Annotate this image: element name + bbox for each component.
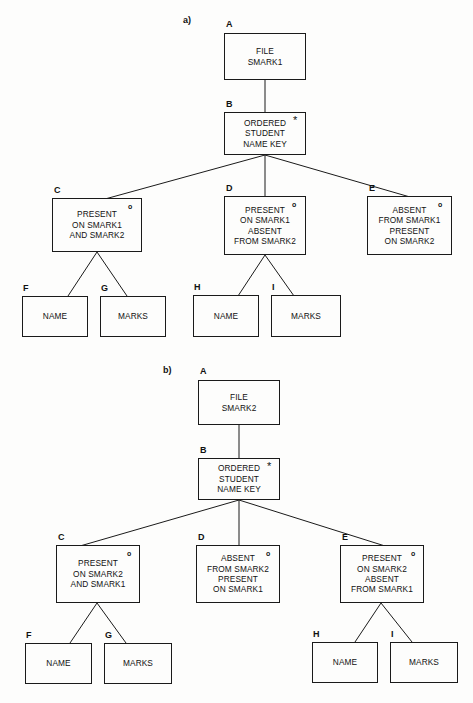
node-a-C-line-3: AND SMARK2 <box>70 230 125 240</box>
node-b-F-line-1: NAME <box>46 658 70 668</box>
node-a-D-line-3: ABSENT <box>248 226 282 236</box>
node-b-E-line-3: ABSENT <box>365 574 399 584</box>
node-id-a-C: C <box>54 185 61 195</box>
node-id-b-I: I <box>391 629 394 639</box>
node-id-a-E: E <box>369 183 375 193</box>
node-b-D-line-3: PRESENT <box>218 574 258 584</box>
node-b-E-line-4: FROM SMARK1 <box>351 584 413 594</box>
node-id-b-H: H <box>313 629 320 639</box>
node-a-C-line-1: PRESENT <box>77 209 117 219</box>
node-b-E-line-2: ON SMARK2 <box>357 564 407 574</box>
section-label-a: a) <box>183 15 191 25</box>
node-a-E-line-4: ON SMARK2 <box>385 236 435 246</box>
node-a-D-line-4: FROM SMARK2 <box>234 236 296 246</box>
node-b-B-line-1: ORDERED <box>218 463 260 473</box>
node-b-G-line-1: MARKS <box>123 658 153 668</box>
node-a-I-line-1: MARKS <box>291 311 321 321</box>
selection-circle-marker-b-C: o <box>127 550 131 557</box>
node-id-b-G: G <box>105 630 112 640</box>
node-id-a-F: F <box>23 283 29 293</box>
node-id-b-B: B <box>200 445 207 455</box>
node-b-I[interactable]: MARKS <box>390 642 458 683</box>
node-id-a-A: A <box>226 19 233 29</box>
node-id-a-H: H <box>194 282 201 292</box>
node-id-a-B: B <box>226 99 233 109</box>
selection-circle-marker-a-E: o <box>438 201 442 208</box>
node-id-b-F: F <box>26 630 32 640</box>
node-b-D-line-1: ABSENT <box>221 553 255 563</box>
selection-circle-marker-a-C: o <box>128 203 132 210</box>
node-b-H[interactable]: NAME <box>312 642 378 683</box>
section-label-b: b) <box>163 365 172 375</box>
node-b-D-line-4: ON SMARK1 <box>213 584 263 594</box>
node-a-D-line-1: PRESENT <box>245 205 285 215</box>
node-b-F[interactable]: NAME <box>25 643 92 684</box>
node-id-a-I: I <box>272 282 275 292</box>
node-a-A-line-1: FILE <box>256 46 274 56</box>
node-b-G[interactable]: MARKS <box>104 643 172 684</box>
node-id-a-D: D <box>226 183 233 193</box>
node-b-B-line-2: STUDENT <box>219 474 259 484</box>
node-a-B-line-3: NAME KEY <box>243 139 287 149</box>
node-b-A[interactable]: FILE SMARK2 <box>198 380 280 425</box>
node-id-b-D: D <box>198 532 205 542</box>
node-b-B-line-3: NAME KEY <box>217 484 261 494</box>
node-b-H-line-1: NAME <box>333 657 357 667</box>
node-a-F-line-1: NAME <box>43 311 67 321</box>
node-b-C-line-2: ON SMARK2 <box>73 569 123 579</box>
node-b-I-line-1: MARKS <box>409 657 439 667</box>
node-a-B-line-2: STUDENT <box>245 128 285 138</box>
figure-canvas: a) A FILE SMARK1 B ORDERED STUDENT NAME … <box>0 0 473 703</box>
selection-circle-marker-a-D: o <box>292 201 296 208</box>
node-a-G-line-1: MARKS <box>118 311 148 321</box>
node-a-A-line-2: SMARK1 <box>248 57 283 67</box>
node-a-H-line-1: NAME <box>214 311 238 321</box>
node-a-G[interactable]: MARKS <box>100 296 166 337</box>
node-a-C-line-2: ON SMARK1 <box>72 220 122 230</box>
node-id-b-C: C <box>58 532 65 542</box>
node-a-H[interactable]: NAME <box>193 295 259 337</box>
node-a-A[interactable]: FILE SMARK1 <box>224 33 306 80</box>
node-a-B-line-1: ORDERED <box>244 118 286 128</box>
node-b-C-line-3: AND SMARK1 <box>71 579 126 589</box>
node-a-D-line-2: ON SMARK1 <box>240 215 290 225</box>
node-b-A-line-2: SMARK2 <box>222 403 257 413</box>
selection-circle-marker-b-E: o <box>411 550 415 557</box>
node-b-A-line-1: FILE <box>230 392 248 402</box>
node-a-E-line-1: ABSENT <box>393 205 427 215</box>
node-id-b-A: A <box>200 366 207 376</box>
iteration-asterisk-marker-b-B: * <box>267 461 271 472</box>
node-b-C-line-1: PRESENT <box>78 558 118 568</box>
node-a-E-line-3: PRESENT <box>390 226 430 236</box>
node-a-F[interactable]: NAME <box>22 296 88 337</box>
node-a-E-line-2: FROM SMARK1 <box>379 215 441 225</box>
selection-circle-marker-b-D: o <box>266 550 270 557</box>
iteration-asterisk-marker-a-B: * <box>293 115 297 126</box>
node-id-a-G: G <box>101 283 108 293</box>
node-b-D-line-2: FROM SMARK2 <box>207 564 269 574</box>
node-a-I[interactable]: MARKS <box>271 295 341 337</box>
node-b-E-line-1: PRESENT <box>362 553 402 563</box>
node-id-b-E: E <box>342 532 348 542</box>
